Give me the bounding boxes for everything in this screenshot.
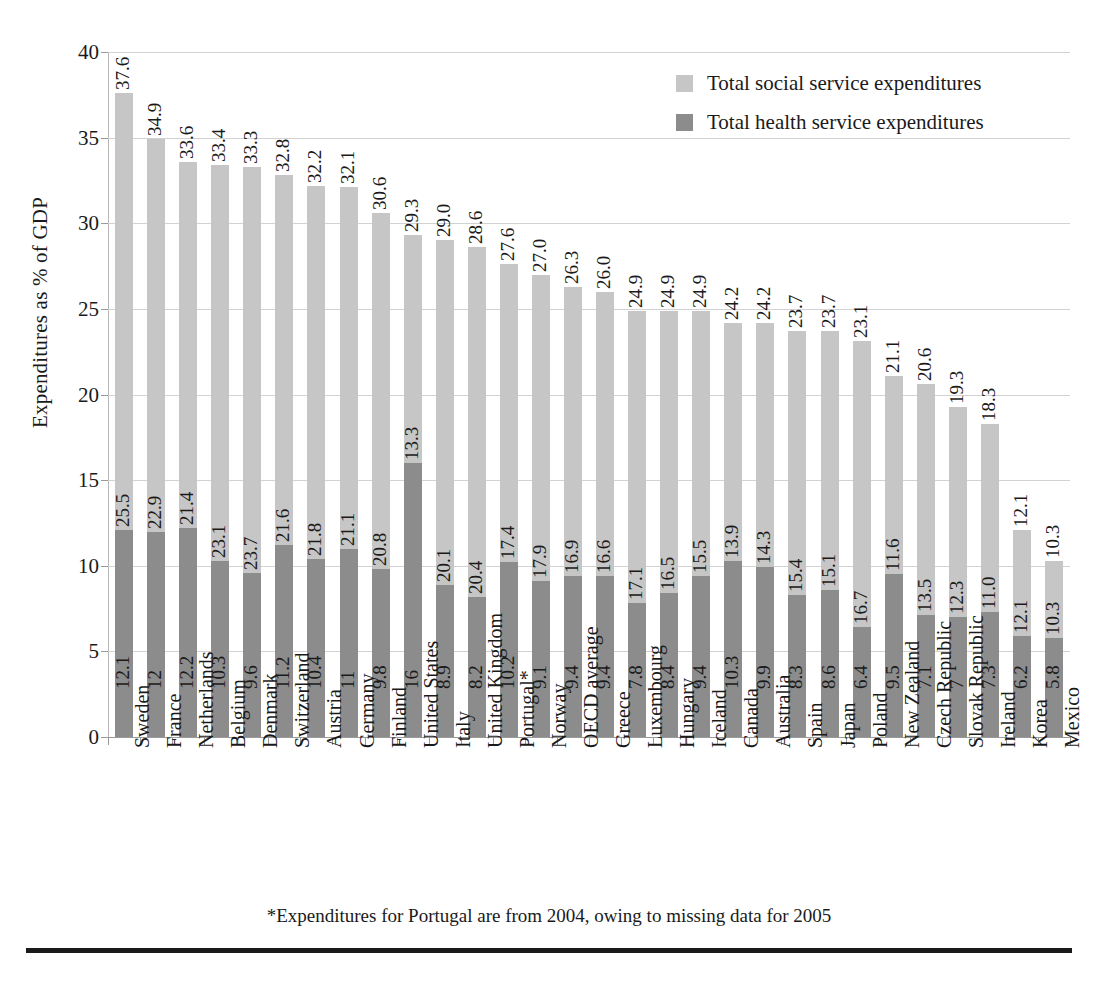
bar-segment-social[interactable] [692,311,710,576]
bar-total-label: 37.6 [112,57,134,90]
bar-total-label: 24.2 [753,286,775,319]
legend-swatch-icon [676,114,693,131]
x-category-label: Greece [612,691,635,748]
bar-segment-social[interactable] [436,240,454,584]
bar-total-label: 33.3 [240,131,262,164]
x-category-label: United Kingdom [484,613,507,748]
bar-social-label: 21.8 [304,523,326,556]
y-tick-label-25: 25 [78,296,99,321]
bar-segment-social[interactable] [179,162,197,528]
y-tickmark-15 [101,480,108,481]
x-category-label: OECD average [580,626,603,748]
bar-segment-social[interactable] [500,264,518,562]
bar-column[interactable] [372,213,390,737]
x-category-label: Australia [772,675,795,748]
x-category-label: Germany [356,674,379,748]
footnote: *Expenditures for Portugal are from 2004… [0,905,1098,927]
legend-item[interactable]: Total health service expenditures [676,103,984,142]
bar-segment-social[interactable] [340,187,358,548]
bar-total-label: 19.3 [946,370,968,403]
bar-total-label: 23.7 [818,295,840,328]
x-category-label: Austria [323,689,346,748]
y-tick-label-5: 5 [89,639,100,664]
x-category-label: Portugal* [516,670,539,748]
bar-social-label: 15.1 [818,553,840,586]
bar-segment-social[interactable] [468,247,486,596]
bar-segment-social[interactable] [147,139,165,531]
bar-social-label: 16.9 [561,540,583,573]
bar-total-label: 32.1 [337,151,359,184]
bar-segment-social[interactable] [307,186,325,559]
bar-total-label: 27.6 [497,228,519,261]
bar-total-label: 20.6 [914,348,936,381]
bar-segment-social[interactable] [275,175,293,545]
bar-social-label: 13.5 [914,579,936,612]
bar-social-label: 23.7 [240,536,262,569]
bar-total-label: 29.0 [433,204,455,237]
x-category-label: Denmark [259,674,282,748]
x-category-label: France [163,694,186,748]
bar-segment-social[interactable] [628,311,646,604]
y-tick-label-40: 40 [78,40,99,65]
bar-social-label: 12.1 [1010,600,1032,633]
bar-social-label: 15.5 [689,540,711,573]
y-tick-label-10: 10 [78,553,99,578]
bar-segment-social[interactable] [596,292,614,576]
x-category-label: Czech Republic [933,621,956,748]
bar-social-label: 17.1 [625,567,647,600]
y-tickmark-0 [101,737,108,738]
bar-total-label: 23.7 [785,295,807,328]
x-category-label: Belgium [227,679,250,748]
bar-total-label: 24.2 [721,286,743,319]
y-tickmark-30 [101,223,108,224]
x-tickmark [108,737,109,745]
legend-item[interactable]: Total social service expenditures [676,64,984,103]
bar-total-label: 32.8 [272,139,294,172]
bar-segment-social[interactable] [788,331,806,595]
bar-social-label: 14.3 [753,531,775,564]
bar-segment-social[interactable] [660,311,678,594]
y-tick-label-20: 20 [78,382,99,407]
legend-label: Total health service expenditures [707,110,984,135]
chart-figure: Expenditures as % of GDP 051015202530354… [0,0,1098,981]
bar-segment-social[interactable] [821,331,839,590]
bar-social-label: 20.4 [465,560,487,593]
bar-segment-social[interactable] [115,93,133,530]
y-tickmark-25 [101,309,108,310]
y-tick-label-30: 30 [78,211,99,236]
bar-total-label: 24.9 [689,274,711,307]
bar-segment-social[interactable] [532,275,550,582]
x-category-label: Italy [452,711,475,748]
bar-social-label: 11.6 [882,539,904,572]
bar-column[interactable] [340,187,358,737]
bar-social-label: 16.6 [593,540,615,573]
x-category-label: Iceland [708,689,731,748]
bar-segment-social[interactable] [564,287,582,576]
bar-segment-social[interactable] [853,341,871,627]
x-category-label: Slovak Republic [965,615,988,748]
bar-column[interactable] [147,139,165,737]
bar-total-label: 30.6 [369,177,391,210]
bar-column[interactable] [115,93,133,737]
bar-social-label: 12.3 [946,581,968,614]
bar-social-label: 15.4 [785,559,807,592]
bar-social-label: 17.4 [497,526,519,559]
bar-column[interactable] [243,167,261,737]
bar-column[interactable] [404,235,422,737]
x-category-label: Norway [548,684,571,748]
bar-segment-social[interactable] [211,165,229,561]
bar-total-label: 33.4 [208,129,230,162]
y-tick-label-35: 35 [78,125,99,150]
bar-social-label: 21.4 [176,492,198,525]
bar-total-label: 34.9 [144,103,166,136]
bar-segment-social[interactable] [372,213,390,569]
x-category-label: Switzerland [291,652,314,748]
x-axis-category-labels: SwedenFranceNetherlandsBelgiumDenmarkSwi… [108,748,1070,898]
bar-segment-social[interactable] [243,167,261,573]
bar-total-label: 10.3 [1042,524,1064,557]
bar-social-label: 17.9 [529,545,551,578]
bar-social-label: 20.1 [433,548,455,581]
legend-swatch-icon [676,75,693,92]
x-category-label: United States [420,641,443,748]
y-tick-label-15: 15 [78,468,99,493]
